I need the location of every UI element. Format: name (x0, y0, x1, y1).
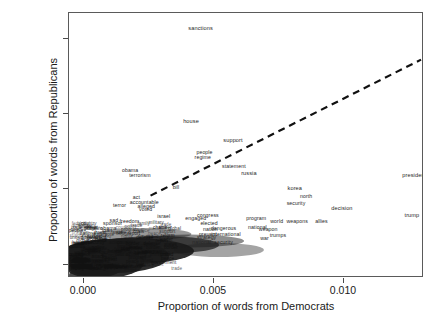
scatter-plot-figure: Proportion of words from Republicans Pro… (0, 0, 436, 322)
data-point-label: statement (222, 164, 246, 169)
data-point-label: states (116, 266, 129, 271)
data-point-label: chamber (153, 226, 172, 231)
data-point-label: allies (315, 220, 327, 225)
data-point-label: trade (171, 266, 182, 271)
data-point-label: decision (331, 206, 352, 212)
data-point-label: justice (144, 242, 158, 247)
data-point-label: border (164, 246, 178, 251)
data-point-label: regime (195, 155, 211, 160)
data-point-label: vote (105, 233, 114, 238)
data-point-label: leader (129, 246, 142, 251)
x-tick-label-0010: 0.010 (313, 284, 373, 296)
data-point-label: health (108, 249, 121, 254)
data-point-label: leader (160, 238, 173, 243)
data-point-label: sanctions (188, 26, 213, 32)
data-point-label: public (146, 235, 159, 240)
data-point-label: office (138, 228, 150, 233)
x-axis-title: Proportion of words from Democrats (68, 300, 424, 312)
data-point-label: terrorism (129, 173, 150, 178)
data-point-label: chamber (151, 251, 170, 256)
data-point-label: korea (288, 186, 303, 192)
data-point-label: world (270, 220, 283, 225)
data-point-label: security (287, 201, 306, 206)
y-axis-title: Proportion of words from Republicans (47, 35, 59, 265)
x-tick-label-0000: 0.000 (53, 284, 113, 296)
x-tick-mark-0010 (343, 278, 344, 283)
data-point-label: voted (139, 208, 152, 213)
data-point-label: war (260, 236, 269, 241)
x-tick-label-0005: 0.005 (183, 284, 243, 296)
data-point-label: weapons (286, 219, 307, 224)
data-point-label: support (223, 138, 242, 144)
data-point-label: border (79, 225, 93, 230)
data-point-label: bill (173, 185, 180, 190)
data-point-label: president (402, 173, 423, 179)
data-point-label: peace (126, 259, 139, 264)
data-point-label: security (214, 241, 233, 246)
data-point-label: military (84, 265, 99, 270)
data-point-label: peace (161, 256, 174, 261)
data-point-label: united (70, 235, 83, 240)
data-point-label: house (183, 119, 199, 125)
data-point-label: trumps (270, 233, 286, 238)
data-point-label: reform (161, 233, 175, 238)
data-point-label: terror (113, 204, 126, 209)
data-point-label: trump (404, 214, 419, 220)
data-point-label: states (140, 264, 153, 269)
data-point-label: budget (116, 232, 131, 237)
data-point-label: leader (71, 253, 84, 258)
data-point-label: year (83, 247, 92, 252)
data-point-label: policy (92, 245, 104, 250)
data-point-label: russia (241, 172, 257, 178)
x-tick-mark-0000 (83, 278, 84, 283)
data-point-label: north (300, 194, 312, 199)
data-point-label: national (192, 240, 211, 245)
data-point-label: program (246, 216, 266, 221)
x-tick-mark-0005 (213, 278, 214, 283)
plot-area: sanctionshousesupportpeopleregimestateme… (68, 12, 423, 277)
